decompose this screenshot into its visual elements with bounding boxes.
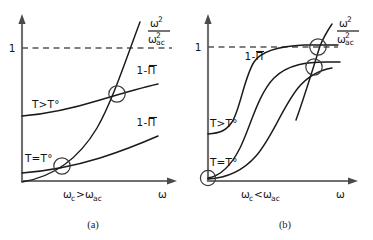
label-one-minus-pi-b: 1-Π: [245, 50, 264, 62]
curve-quadratic-b: [296, 24, 332, 120]
x-axis-arrowhead-b: [348, 177, 358, 184]
condition-sub-c-b: c: [249, 194, 253, 203]
parabola-label-numerator-exp-a: 2: [158, 15, 163, 24]
caption-panel-a: (a): [73, 219, 113, 230]
label-one-minus-pi-lower-a: 1-Π: [137, 116, 157, 128]
y-tick-label-one-b: 1: [195, 41, 202, 53]
parabola-label-denominator-sub-b: ac: [345, 38, 354, 47]
condition-relation-b: <: [254, 188, 263, 200]
y-axis-arrowhead-a: [18, 14, 25, 24]
y-axis-arrowhead-b: [204, 14, 211, 24]
label-temp-equal-b: T=T°: [209, 156, 238, 168]
figure-container: 1 ω 2 ω 2 ac 1-Π 1-Π T>T°: [0, 0, 373, 240]
caption-panel-b: (b): [265, 219, 305, 230]
parabola-label-denominator-sub-a: ac: [156, 38, 165, 47]
panel-b: 1 ω 2 ω 2 ac 1-Π T>T° T=T°: [186, 0, 373, 215]
x-axis-label-b: ω: [336, 188, 345, 200]
condition-sub-ac-a: ac: [93, 194, 102, 203]
condition-sub-c-a: c: [71, 194, 75, 203]
parabola-label-a: ω 2 ω 2 ac: [148, 15, 170, 47]
condition-label-a: ω c > ω ac: [63, 188, 102, 203]
panel-a: 1 ω 2 ω 2 ac 1-Π 1-Π T>T°: [0, 0, 186, 215]
label-temp-greater-b: T>T°: [209, 117, 238, 129]
label-temp-greater-a: T>T°: [31, 98, 60, 110]
parabola-label-b: ω 2 ω 2 ac: [337, 15, 359, 47]
x-axis-label-a: ω: [158, 188, 167, 200]
condition-relation-a: >: [76, 188, 85, 200]
y-tick-label-one-a: 1: [9, 42, 16, 54]
parabola-label-numerator-exp-b: 2: [347, 15, 352, 24]
label-temp-equal-a: T=T°: [24, 152, 53, 164]
condition-label-b: ω c < ω ac: [241, 188, 280, 203]
x-axis-arrowhead-a: [167, 177, 177, 184]
label-one-minus-pi-upper-a: 1-Π: [137, 64, 157, 76]
condition-sub-ac-b: ac: [271, 194, 280, 203]
